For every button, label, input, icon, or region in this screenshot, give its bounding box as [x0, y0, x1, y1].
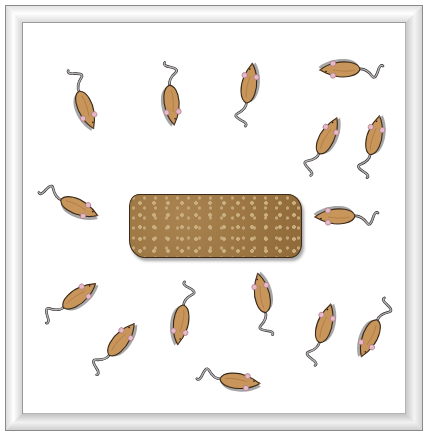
mouse-icon [302, 202, 378, 232]
frame-bottom-bevel [6, 413, 422, 430]
frame-right-bevel [405, 6, 422, 430]
frame-left-bevel [6, 6, 23, 430]
food-block [129, 194, 302, 258]
mouse-enclosure-illustration [0, 0, 428, 436]
frame-top-bevel [6, 6, 422, 23]
mouse-icon [307, 55, 383, 85]
